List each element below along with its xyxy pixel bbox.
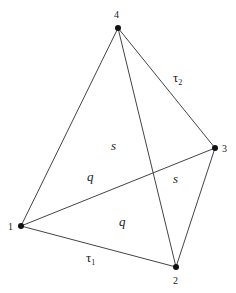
edge-labels-group: τ2 τ1: [86, 70, 182, 267]
edge-1-3: [21, 148, 215, 226]
edge-label-tau2: τ2: [173, 70, 182, 87]
vertex-3-dot: [212, 145, 218, 151]
vertex-3-label: 3: [222, 143, 227, 154]
region-labels-group: s s q q: [87, 138, 178, 229]
vertex-1-label: 1: [8, 221, 13, 232]
region-label-s-upper: s: [111, 138, 116, 153]
region-label-q-lower: q: [119, 214, 126, 229]
edge-1-4: [21, 28, 118, 226]
edges-group: [21, 28, 215, 267]
vertex-labels-group: 1 2 3 4: [8, 9, 227, 286]
vertex-4-dot: [115, 25, 121, 31]
vertex-2-dot: [173, 264, 179, 270]
vertex-1-dot: [18, 223, 24, 229]
region-label-q-upper: q: [87, 169, 94, 184]
vertex-2-label: 2: [173, 275, 178, 286]
edge-label-tau1: τ1: [86, 250, 95, 267]
edge-1-2: [21, 226, 176, 267]
region-label-s-right: s: [173, 171, 178, 186]
vertex-4-label: 4: [114, 9, 119, 20]
tetrahedron-diagram: 1 2 3 4 τ2 τ1 s s q q: [0, 0, 236, 293]
edge-3-2: [176, 148, 215, 267]
